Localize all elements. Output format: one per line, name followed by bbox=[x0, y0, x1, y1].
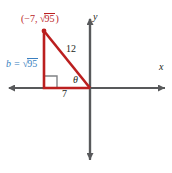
right-angle-marker bbox=[44, 76, 57, 88]
point-radical: √95 bbox=[37, 13, 55, 24]
point-coordinate-label: (−7, √95) bbox=[21, 13, 59, 24]
leg-radical: √95 bbox=[20, 58, 38, 69]
hypotenuse-label: 12 bbox=[66, 44, 76, 54]
x-axis-label: x bbox=[159, 62, 163, 72]
triangle-hypotenuse bbox=[44, 31, 90, 88]
y-axis-label: y bbox=[93, 12, 97, 22]
point-x-part: (−7, bbox=[21, 13, 37, 24]
plotted-point-dot bbox=[42, 29, 47, 34]
leg-variable-name: b bbox=[6, 58, 11, 69]
vertical-leg-label: b = √95 bbox=[6, 58, 38, 69]
math-figure: y x (−7, √95) b = √95 12 θ 7 bbox=[0, 0, 172, 173]
point-close-paren: ) bbox=[55, 13, 58, 24]
angle-theta-label: θ bbox=[73, 75, 78, 85]
figure-canvas bbox=[0, 0, 172, 173]
leg-radicand: 95 bbox=[27, 58, 38, 69]
equals-sign: = bbox=[14, 58, 21, 69]
point-radicand: 95 bbox=[44, 13, 55, 24]
horizontal-leg-label: 7 bbox=[62, 89, 67, 99]
